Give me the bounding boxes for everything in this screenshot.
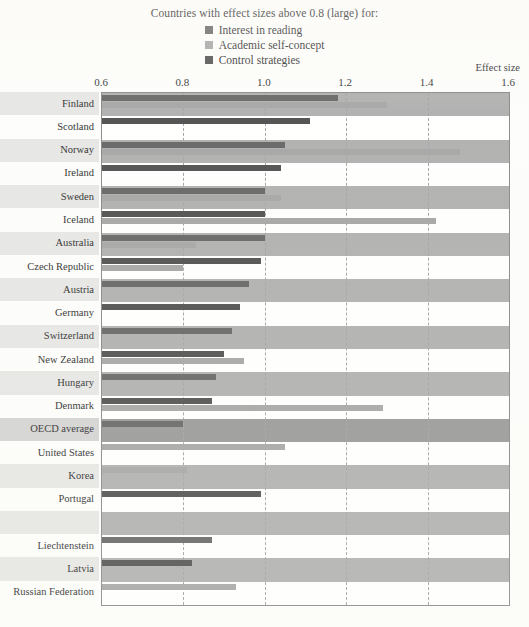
bar [102, 374, 216, 380]
category-label: Russian Federation [13, 586, 94, 598]
legend-entries: Interest in readingAcademic self-concept… [205, 23, 325, 68]
category-label: New Zealand [38, 354, 94, 366]
legend-swatch-academic-self-concept-icon [205, 41, 213, 49]
bar [102, 328, 232, 334]
bar [102, 95, 338, 101]
legend-entry: Academic self-concept [205, 38, 325, 52]
axis-title: Effect size [476, 62, 520, 73]
legend-entry: Control strategies [205, 53, 325, 67]
category-label: Czech Republic [27, 261, 94, 273]
bar [102, 149, 460, 155]
bar [102, 242, 196, 248]
category-label: OECD average [30, 423, 94, 435]
x-tick-label: 1.4 [420, 76, 434, 88]
bar [102, 358, 244, 364]
bar [102, 165, 281, 171]
bar [102, 188, 265, 194]
bar [102, 537, 212, 543]
bar [102, 265, 183, 271]
bar [102, 444, 285, 450]
category-label: Latvia [67, 563, 94, 575]
category-label: Scotland [57, 121, 94, 133]
bar [102, 421, 183, 427]
bar [102, 235, 265, 241]
legend-entry-label: Control strategies [219, 54, 300, 67]
category-label: Korea [68, 470, 94, 482]
category-labels: FinlandScotlandNorwayIrelandSwedenIcelan… [0, 92, 99, 604]
gridline [428, 93, 429, 605]
bar [102, 195, 281, 201]
category-label: Australia [56, 237, 95, 249]
bar [102, 281, 249, 287]
category-label: Sweden [61, 191, 94, 203]
category-label: Austria [63, 284, 94, 296]
bar [102, 405, 383, 411]
legend-entry-label: Academic self-concept [219, 39, 325, 52]
category-label: Finland [62, 98, 94, 110]
category-label: Ireland [64, 167, 94, 179]
x-tick-label: 1.2 [338, 76, 352, 88]
x-tick-label: 0.8 [176, 76, 190, 88]
category-label: Denmark [55, 400, 94, 412]
legend-swatch-control-strategies-icon [205, 56, 213, 64]
x-tick-label: 0.6 [94, 76, 108, 88]
legend-entry-label: Interest in reading [219, 24, 303, 37]
bar [102, 211, 265, 217]
category-label: Hungary [57, 377, 94, 389]
gridline [346, 93, 347, 605]
bar [102, 118, 310, 124]
row-band [102, 512, 509, 535]
bar [102, 584, 236, 590]
category-label: Liechtenstein [37, 540, 94, 552]
category-label: Iceland [63, 214, 94, 226]
legend-entry: Interest in reading [205, 23, 325, 37]
bar [102, 218, 436, 224]
plot-area [101, 92, 510, 606]
figure: Countries with effect sizes above 0.8 (l… [0, 0, 529, 627]
legend-swatch-interest-in-reading-icon [205, 26, 213, 34]
bar [102, 304, 240, 310]
category-label: Portugal [58, 493, 94, 505]
category-label: Norway [60, 144, 94, 156]
bar [102, 467, 187, 473]
category-label: Switzerland [44, 330, 94, 342]
x-axis-tick-labels: 0.60.81.01.21.41.6 [0, 76, 529, 92]
x-tick-label: 1.6 [501, 76, 515, 88]
bar [102, 351, 224, 357]
category-label: Germany [55, 307, 94, 319]
bar [102, 398, 212, 404]
x-tick-label: 1.0 [257, 76, 271, 88]
bar [102, 142, 285, 148]
bar [102, 491, 261, 497]
bar [102, 258, 261, 264]
chart-title: Countries with effect sizes above 0.8 (l… [0, 6, 529, 20]
category-label: United States [38, 447, 94, 459]
chart-legend-block: Countries with effect sizes above 0.8 (l… [0, 6, 529, 68]
bar [102, 560, 192, 566]
row-band-label-strip [0, 511, 99, 534]
bar [102, 102, 387, 108]
